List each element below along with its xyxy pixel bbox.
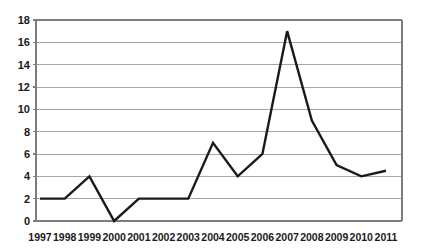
x-axis-tick-label: 2006 <box>251 232 274 243</box>
data-series-line <box>40 31 386 221</box>
y-axis-tick-label: 12 <box>18 82 30 93</box>
y-axis-tick-label: 10 <box>18 104 30 115</box>
y-axis-tick-label: 0 <box>24 216 30 227</box>
y-axis-tick-label: 14 <box>18 59 30 70</box>
gridlines-group <box>36 20 402 221</box>
plot-frame <box>36 20 402 221</box>
chart-plot-area <box>0 0 424 252</box>
x-axis-tick-label: 2002 <box>152 232 175 243</box>
y-axis-tick-label: 4 <box>24 171 30 182</box>
x-axis-tick-label: 2003 <box>177 232 200 243</box>
y-axis-tick-label: 8 <box>24 126 30 137</box>
x-axis-tick-label: 2010 <box>350 232 373 243</box>
x-axis-tick-label: 2005 <box>226 232 249 243</box>
y-axis-tick-label: 18 <box>18 15 30 26</box>
x-axis-tick-label: 1997 <box>28 232 51 243</box>
x-axis-tick-label: 2001 <box>127 232 150 243</box>
x-axis-tick-label: 2004 <box>201 232 224 243</box>
x-axis-tick-label: 2011 <box>375 232 398 243</box>
x-axis-tick-label: 1998 <box>53 232 76 243</box>
x-axis-tick-label: 2009 <box>325 232 348 243</box>
y-axis-tick-label: 16 <box>18 37 30 48</box>
x-axis-tick-label: 2008 <box>300 232 323 243</box>
line-chart: 024681012141618 199719981999200020012002… <box>0 0 424 252</box>
y-axis-tick-label: 6 <box>24 149 30 160</box>
x-axis-tick-label: 1999 <box>78 232 101 243</box>
x-axis-tick-label: 2000 <box>102 232 125 243</box>
x-axis-tick-label: 2007 <box>275 232 298 243</box>
y-axis-tick-label: 2 <box>24 193 30 204</box>
